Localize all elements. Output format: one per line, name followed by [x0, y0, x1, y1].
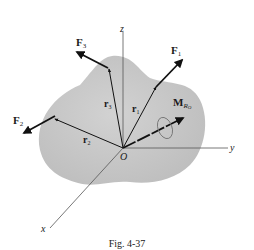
resultant-force-diagram: z y x O F1 F2 F3 r1 r2 r3 MRO Fig. 4-37	[0, 0, 254, 250]
x-axis-label: x	[40, 223, 46, 234]
f1-label: F1	[171, 44, 182, 58]
figure-caption: Fig. 4-37	[109, 238, 146, 249]
origin-label: O	[120, 151, 127, 162]
rigid-body	[39, 56, 205, 185]
f2-label: F2	[13, 114, 24, 128]
f3-label: F3	[76, 36, 87, 50]
z-axis-label: z	[119, 23, 124, 34]
y-axis-label: y	[229, 142, 235, 153]
